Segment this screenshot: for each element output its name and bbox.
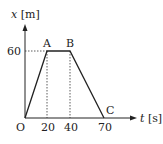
x-tick-70: 70 (98, 121, 112, 134)
x-axis-arrow-icon (130, 116, 137, 121)
position-time-graph: x [m] t [s] 60 O 20 40 70 A B C (0, 0, 163, 144)
y-axis-label: x [m] (11, 8, 40, 21)
point-label-C: C (106, 104, 114, 117)
x-tick-40: 40 (64, 121, 78, 134)
point-label-A: A (42, 37, 52, 50)
xt-line (25, 51, 104, 118)
x-tick-20: 20 (41, 121, 55, 134)
origin-label: O (16, 121, 25, 134)
y-axis-arrow-icon (23, 24, 28, 31)
x-axis-label: t [s] (140, 112, 162, 125)
point-label-B: B (66, 37, 74, 50)
y-tick-60: 60 (7, 45, 21, 58)
